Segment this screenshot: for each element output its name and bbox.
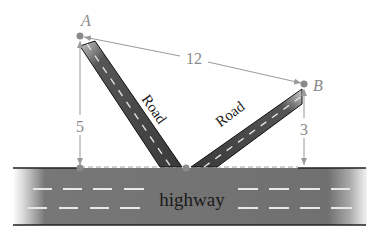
height-A-label: 5 xyxy=(76,118,84,135)
dimension-height-A: 5 xyxy=(76,41,84,165)
point-B-label: B xyxy=(313,77,323,94)
point-A xyxy=(77,33,84,40)
left-road: Road xyxy=(80,41,182,167)
point-A-label: A xyxy=(80,12,91,29)
right-road-label: Road xyxy=(213,98,248,130)
distance-AB-label: 12 xyxy=(186,50,202,67)
highway-label: highway xyxy=(159,189,225,210)
point-A-foot xyxy=(77,165,84,172)
point-B xyxy=(301,81,308,88)
highway: highway xyxy=(13,168,367,225)
right-road: Road xyxy=(191,89,302,167)
height-B-label: 3 xyxy=(300,121,308,138)
point-junction xyxy=(183,165,190,172)
road-highway-diagram: highway Road Road 12 5 3 A B xyxy=(0,0,382,236)
